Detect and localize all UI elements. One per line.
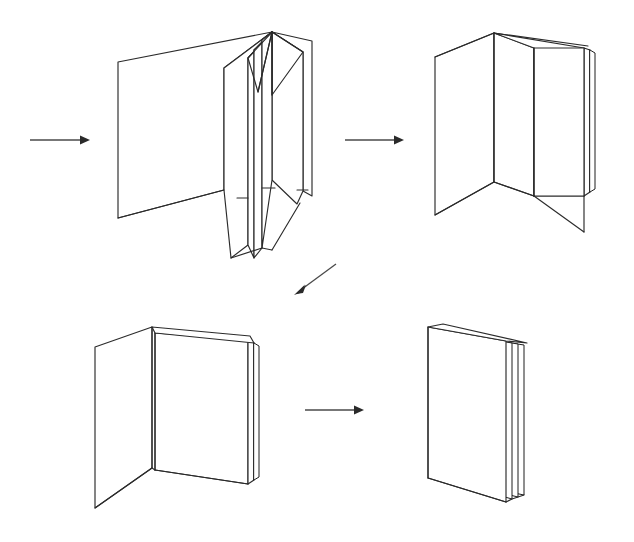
folding-diagram-canvas [0, 0, 634, 542]
step4-foot-step-2 [512, 497, 518, 499]
step2-panel-right-leaf-b [590, 50, 595, 192]
step2-panel-middle [494, 33, 534, 196]
arrow-step-2-to-step-3 [294, 264, 336, 295]
arrow-start-to-step-1 [30, 136, 90, 145]
step3-leaf-2 [254, 343, 259, 480]
step2-panel-left [435, 33, 494, 215]
step4-foot-step-1 [506, 499, 512, 502]
step4-foot-step-3 [518, 495, 524, 497]
step1-panel-right-of-center [262, 32, 272, 248]
step-2-three-panel-partially-folded [435, 33, 595, 232]
step-1-accordion-unfolded-sheet [118, 32, 312, 258]
step2-panel-right-front [534, 48, 584, 196]
step-4-closed-booklet [428, 324, 527, 502]
step1-bottom-edge-right [272, 203, 300, 250]
arrow-step-3-to-step-4 [305, 406, 364, 415]
step3-panel-front [155, 333, 248, 484]
step2-bottom-edge-right [534, 196, 584, 232]
step3-panel-left-back [95, 327, 152, 508]
diagram-svg [0, 0, 634, 542]
step1-bottom-edge-join [262, 248, 272, 250]
step-3-two-panel-nearly-closed [95, 327, 259, 508]
arrow-step-1-to-step-2 [345, 136, 404, 145]
step2-panel-right-leaf-a [584, 48, 590, 196]
step3-leaf-1 [248, 340, 254, 484]
step4-front-cover [428, 327, 506, 502]
